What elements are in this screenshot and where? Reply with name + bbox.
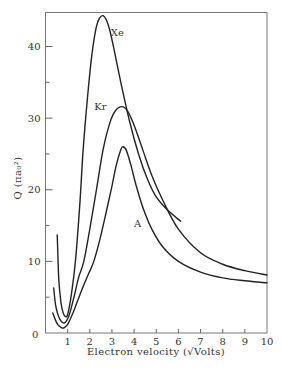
x-tick-label: 10	[261, 336, 274, 347]
x-tick-label: 9	[242, 336, 248, 347]
y-tick-label: 10	[28, 256, 41, 267]
series-label-xe: Xe	[111, 27, 124, 38]
series-label-kr: Kr	[94, 101, 106, 112]
y-tick-label: 40	[28, 41, 41, 52]
curve-xe	[57, 16, 180, 317]
curve-kr	[54, 107, 267, 323]
y-tick-label: 20	[28, 184, 41, 195]
x-axis-ticks: 12345678910	[64, 329, 273, 347]
plot-frame	[46, 13, 268, 334]
cross-section-chart: 12345678910 10203040 0 XeKrA Electron ve…	[0, 0, 281, 370]
origin-label: 0	[32, 329, 38, 340]
x-axis-title: Electron velocity (√Volts)	[87, 346, 225, 357]
y-tick-label: 30	[28, 113, 41, 124]
curve-a	[53, 147, 267, 328]
series-label-a: A	[133, 218, 142, 229]
series-curves	[53, 16, 267, 329]
x-tick-label: 1	[64, 336, 70, 347]
y-axis-ticks: 10203040	[28, 41, 53, 297]
y-axis-title: Q (πa₀²)	[12, 157, 23, 200]
